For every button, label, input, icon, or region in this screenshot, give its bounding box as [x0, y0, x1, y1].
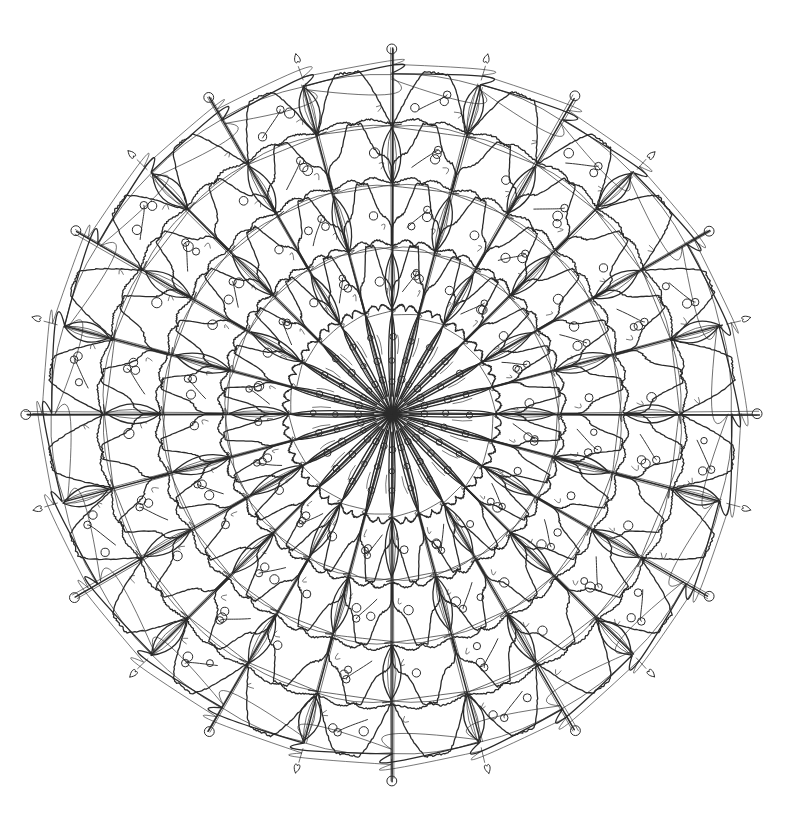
mandala-canvas: Radial Mandala Line Drawing Hand-drawn b… — [0, 0, 792, 825]
mandala-artwork: Radial Mandala Line Drawing Hand-drawn b… — [0, 0, 792, 825]
ink-stroke — [27, 414, 374, 415]
